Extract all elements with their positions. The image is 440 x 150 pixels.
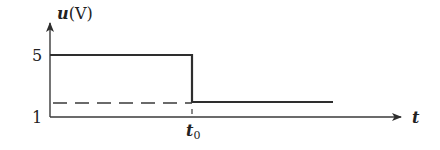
y-axis-variable: u: [57, 4, 69, 23]
t0-label-subscript: 0: [193, 129, 200, 142]
y-axis-label: u(V): [57, 4, 93, 23]
y-tick-label-high: 5: [32, 46, 42, 65]
t0-label: t0: [186, 121, 200, 142]
signal-waveform: [50, 55, 333, 102]
y-axis-unit: (V): [69, 4, 93, 23]
y-tick-label-low: 1: [32, 108, 42, 127]
x-axis-label: t: [412, 108, 420, 127]
voltage-step-diagram: u(V) 5 1 t0 t: [0, 0, 440, 150]
